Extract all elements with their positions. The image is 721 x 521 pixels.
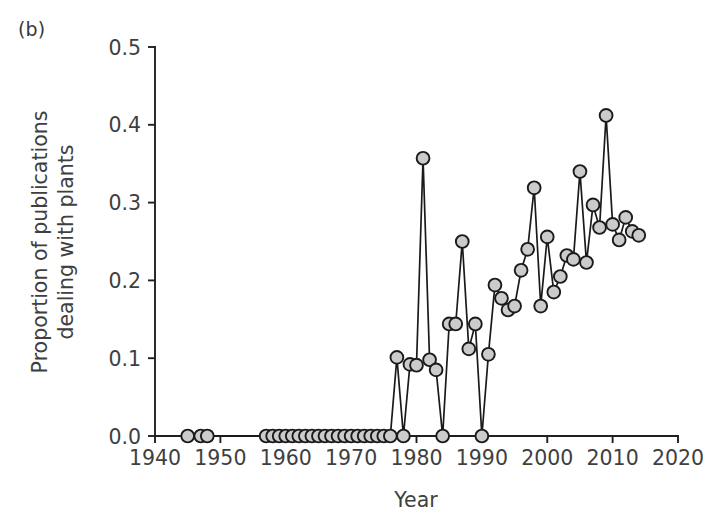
x-tick-label: 1970 [325,446,377,470]
x-tick-label: 1960 [260,446,312,470]
data-point-marker [587,199,600,212]
data-point-marker [384,430,397,443]
x-axis-title: Year [393,488,438,512]
y-axis-title-line2: dealing with plants [54,144,78,339]
data-point-marker [397,430,410,443]
figure-container: (b) 0.00.10.20.30.40.5 19401950196019701… [0,0,721,521]
data-point-marker [606,218,619,231]
x-tick-label: 1990 [456,446,508,470]
data-point-marker [462,342,475,355]
data-point-marker [181,430,194,443]
y-tick-label: 0.0 [108,425,141,449]
line-chart: 0.00.10.20.30.40.5 194019501960197019801… [0,0,721,521]
y-axis-ticks: 0.00.10.20.30.40.5 [108,36,155,449]
data-point-marker [600,109,613,122]
data-point-marker [574,165,587,178]
y-tick-label: 0.4 [108,113,141,137]
data-point-marker [547,286,560,299]
data-point-marker [528,181,541,194]
data-point-marker [593,221,606,234]
x-axis-ticks: 194019501960197019801990200020102020 [129,436,704,470]
data-point-marker [508,300,521,313]
y-tick-label: 0.5 [108,36,141,60]
data-point-marker [449,318,462,331]
data-point-marker [619,211,632,224]
x-tick-label: 1980 [390,446,442,470]
data-point-marker [632,229,645,242]
data-point-marker [430,363,443,376]
data-point-marker [613,234,626,247]
data-point-marker [489,279,502,292]
data-point-marker [580,256,593,269]
x-tick-label: 2000 [521,446,573,470]
data-point-marker [410,359,423,372]
data-point-marker [541,230,554,243]
data-point-marker [456,235,469,248]
data-point-marker [390,351,403,364]
x-tick-label: 2020 [652,446,704,470]
series-line-path [188,115,639,436]
x-tick-label: 1950 [194,446,246,470]
data-point-marker [495,292,508,305]
data-point-marker [521,243,534,256]
x-tick-label: 1940 [129,446,181,470]
data-point-marker [436,430,449,443]
data-point-marker [515,264,528,277]
x-tick-label: 2010 [587,446,639,470]
data-point-marker [469,318,482,331]
series-markers [181,109,645,442]
data-point-marker [567,253,580,266]
data-point-marker [482,348,495,361]
data-point-marker [554,270,567,283]
data-point-marker [417,152,430,165]
data-point-marker [534,300,547,313]
data-point-marker [475,430,488,443]
y-tick-label: 0.2 [108,269,141,293]
y-tick-label: 0.3 [108,191,141,215]
data-point-marker [201,430,214,443]
y-tick-label: 0.1 [108,347,141,371]
y-axis-title-line1: Proportion of publications [28,111,52,374]
